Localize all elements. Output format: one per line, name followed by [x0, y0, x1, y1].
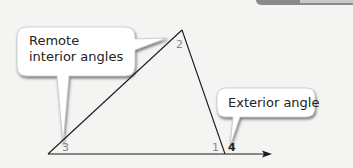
diagram-canvas: Remote interior angles Exterior angle 2 … — [0, 0, 353, 168]
triangle-figure — [0, 0, 353, 168]
exterior-angle-label: Exterior angle — [228, 95, 319, 111]
remote-interior-line1: Remote — [29, 33, 123, 49]
remote-interior-label: Remote interior angles — [29, 33, 123, 65]
angle-4-label: 4 — [228, 142, 236, 154]
angle-1-label: 1 — [212, 142, 219, 154]
angle-3-label: 3 — [62, 142, 69, 154]
remote-interior-line2: interior angles — [29, 49, 123, 65]
angle-2-label: 2 — [176, 39, 183, 51]
